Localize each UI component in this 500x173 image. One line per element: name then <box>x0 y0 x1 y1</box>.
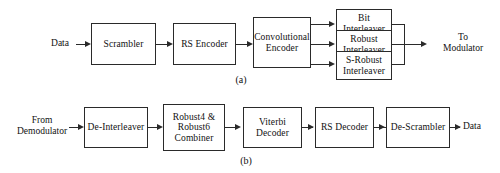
block-viterbi-decoder: Viterbi Decoder <box>243 107 302 148</box>
block-de-scrambler-label: De-Scrambler <box>387 122 449 133</box>
block-rs-decoder-label: RS Decoder <box>316 122 373 133</box>
arrowhead-rs-decoder-to-de-scrambler <box>379 124 385 130</box>
tx-output-label: To Modulator <box>432 32 494 54</box>
block-s-robust-interleaver: S-Robust Interleaver <box>336 51 392 80</box>
arrowhead-de-scrambler-to-data <box>455 124 461 130</box>
tx-input-label: Data <box>44 38 76 49</box>
block-scrambler-label: Scrambler <box>92 39 155 50</box>
arrowhead-combiner-to-viterbi <box>235 124 241 130</box>
block-convolutional-encoder: Convolutional Encoder <box>253 17 311 68</box>
connector-conv-to-robust-interleaver <box>311 44 331 45</box>
block-s-robust-interleaver-label: S-Robust Interleaver <box>337 55 391 76</box>
arrowhead-conv-to-s-robust-interleaver <box>329 61 335 67</box>
block-diagram-figure: Data Scrambler RS Encoder Convolutional … <box>0 0 500 173</box>
block-rs-decoder: RS Decoder <box>315 107 374 148</box>
block-viterbi-decoder-label: Viterbi Decoder <box>244 117 301 138</box>
caption-b: (b) <box>233 155 259 166</box>
block-rs-encoder: RS Encoder <box>173 23 236 65</box>
block-de-interleaver-label: De-Interleaver <box>85 122 147 133</box>
rx-output-label: Data <box>463 121 495 132</box>
arrowhead-bus-to-modulator <box>421 41 427 47</box>
block-de-scrambler: De-Scrambler <box>386 107 450 148</box>
block-de-interleaver: De-Interleaver <box>84 107 148 148</box>
block-robust-combiner-label: Robust4 & Robust6 Combiner <box>164 112 224 144</box>
caption-a: (a) <box>228 74 254 85</box>
connector-bus-to-modulator <box>404 44 422 45</box>
connector-conv-to-s-robust-interleaver <box>311 64 331 65</box>
block-robust-combiner: Robust4 & Robust6 Combiner <box>163 104 225 151</box>
arrowhead-conv-to-bit-interleaver <box>329 21 335 27</box>
rx-input-label: From Demodulator <box>8 115 76 137</box>
block-rs-encoder-label: RS Encoder <box>174 39 235 50</box>
connector-conv-to-bit-interleaver <box>311 24 331 25</box>
arrowhead-viterbi-to-rs-decoder <box>308 124 314 130</box>
block-convolutional-encoder-label: Convolutional Encoder <box>252 32 312 53</box>
arrowhead-conv-to-robust-interleaver <box>329 41 335 47</box>
block-scrambler: Scrambler <box>91 23 156 65</box>
